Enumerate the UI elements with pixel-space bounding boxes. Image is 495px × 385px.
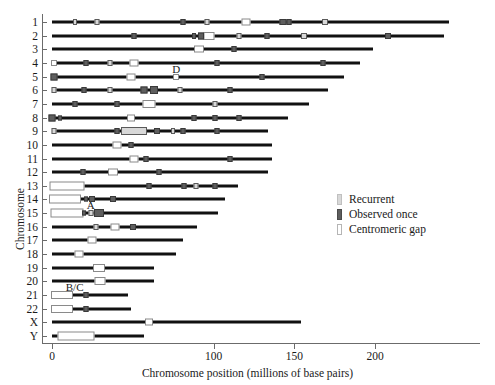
chromosome-bar-18 <box>52 253 176 256</box>
x-tick-label: 200 <box>366 350 383 362</box>
y-tick <box>43 63 47 64</box>
y-tick <box>43 104 47 105</box>
marker-once-14-1 <box>84 197 88 202</box>
y-tick-label-21: 21 <box>18 289 38 301</box>
marker-once-8-5 <box>237 115 242 121</box>
marker-gap-5-1 <box>127 73 136 80</box>
chromosome-bar-16 <box>52 225 197 228</box>
marker-once-11-2 <box>227 156 232 162</box>
y-tick <box>43 186 47 187</box>
marker-once-1-2 <box>180 19 185 25</box>
marker-once-10-1 <box>129 142 134 148</box>
y-tick-label-16: 16 <box>18 221 38 233</box>
y-tick <box>43 227 47 228</box>
legend-label-recurrent: Recurrent <box>349 194 394 206</box>
y-tick <box>43 309 47 310</box>
marker-gap-17-0 <box>88 237 97 244</box>
x-tick <box>375 344 376 349</box>
marker-gap-16-1 <box>110 223 119 230</box>
legend-label-gap: Centromeric gap <box>349 224 426 236</box>
marker-recurrent-15-2 <box>88 210 93 216</box>
marker-once-7-0 <box>72 101 77 107</box>
y-tick-label-19: 19 <box>18 262 38 274</box>
chromosome-bar-5 <box>52 75 344 78</box>
legend-swatch-gap <box>337 224 342 235</box>
marker-gap-13-0 <box>49 181 84 190</box>
marker-recurrent-16-0 <box>93 224 98 230</box>
chromosome-bar-7 <box>52 102 309 105</box>
y-tick-label-4: 4 <box>18 57 38 69</box>
marker-recurrent-9-2 <box>121 127 147 135</box>
marker-gap-4-0 <box>51 60 57 66</box>
y-tick <box>43 268 47 269</box>
x-tick <box>214 344 215 349</box>
y-tick <box>43 90 47 91</box>
marker-recurrent-13-3 <box>193 183 198 189</box>
marker-gap-7-2 <box>142 100 155 108</box>
chromosome-bar-10 <box>52 143 272 146</box>
y-tick-label-12: 12 <box>18 166 38 178</box>
marker-once-12-0 <box>80 169 85 175</box>
marker-once-2-7 <box>385 33 391 39</box>
y-tick-label-3: 3 <box>18 43 38 55</box>
marker-once-6-3 <box>141 87 148 94</box>
y-tick <box>43 36 47 37</box>
marker-gap-18-0 <box>75 251 84 258</box>
chromosome-bar-11 <box>52 157 272 160</box>
marker-once-15-3 <box>94 209 104 217</box>
marker-gap-10-0 <box>112 141 121 148</box>
marker-recurrent-6-0 <box>51 87 56 93</box>
marker-once-2-0 <box>132 33 137 39</box>
chromosome-bar-1 <box>52 21 449 24</box>
marker-once-11-1 <box>143 156 148 162</box>
chromosome-bar-17 <box>52 239 183 242</box>
marker-gap-X-0 <box>145 319 153 326</box>
marker-once-5-0 <box>50 73 57 80</box>
marker-once-4-5 <box>321 60 326 66</box>
marker-gap-15-0 <box>50 209 83 218</box>
marker-recurrent-1-7 <box>322 19 328 25</box>
marker-once-13-1 <box>146 183 151 189</box>
marker-once-12-2 <box>156 169 161 175</box>
marker-once-8-0 <box>49 114 56 121</box>
marker-gap-2-3 <box>203 32 214 40</box>
marker-once-13-4 <box>213 183 218 189</box>
marker-recurrent-7-3 <box>213 101 218 107</box>
marker-gap-21-0 <box>51 291 73 299</box>
marker-recurrent-1-0 <box>73 19 77 25</box>
marker-once-7-1 <box>114 101 119 107</box>
y-tick-label-9: 9 <box>18 125 38 137</box>
marker-once-13-2 <box>182 183 187 189</box>
y-tick-label-18: 18 <box>18 248 38 260</box>
marker-once-8-4 <box>213 115 218 121</box>
chromosome-bar-X <box>52 321 301 324</box>
legend-label-once: Observed once <box>349 209 418 221</box>
marker-once-1-6 <box>287 19 292 25</box>
y-tick-label-1: 1 <box>18 16 38 28</box>
y-tick-label-20: 20 <box>18 275 38 287</box>
marker-recurrent-9-0 <box>51 128 56 134</box>
y-tick <box>43 336 47 337</box>
marker-once-2-2 <box>198 32 204 39</box>
marker-once-14-3 <box>110 196 116 202</box>
y-tick <box>43 118 47 119</box>
marker-once-9-1 <box>114 128 119 134</box>
y-tick <box>43 295 47 296</box>
marker-gap-4-3 <box>130 59 139 66</box>
marker-recurrent-2-4 <box>237 33 242 39</box>
marker-once-16-2 <box>130 224 136 230</box>
marker-gap-3-0 <box>194 46 204 53</box>
marker-once-9-6 <box>214 128 219 134</box>
y-tick-label-10: 10 <box>18 139 38 151</box>
marker-once-8-1 <box>58 115 62 120</box>
y-tick-label-8: 8 <box>18 112 38 124</box>
marker-gap-14-0 <box>49 195 81 204</box>
x-tick <box>294 344 295 349</box>
chromosome-bar-6 <box>52 89 328 92</box>
y-tick <box>43 322 47 323</box>
chart-legend: RecurrentObserved onceCentromeric gap <box>337 192 426 237</box>
y-tick <box>43 22 47 23</box>
marker-gap-19-0 <box>93 264 105 272</box>
y-tick <box>43 240 47 241</box>
legend-item-once: Observed once <box>337 207 426 222</box>
